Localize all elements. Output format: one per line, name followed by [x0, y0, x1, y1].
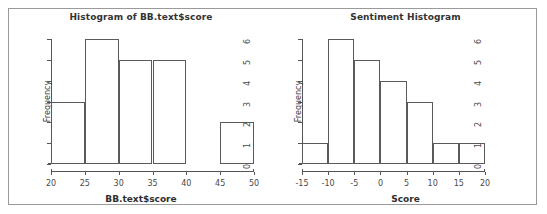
- y-tick-label: 2: [475, 122, 483, 127]
- x-axis-label-left: BB.text$score: [9, 194, 273, 204]
- histogram-bar: [328, 39, 354, 164]
- x-tick-mark: [85, 172, 86, 175]
- x-tick-mark: [119, 172, 120, 175]
- x-tick-label: 0: [378, 180, 383, 188]
- plot-area-right: 0123456-15-10-505101520: [302, 39, 485, 164]
- y-axis-label-left: Frequency: [43, 80, 52, 121]
- chart-title-left: Histogram of BB.text$score: [9, 12, 273, 22]
- x-tick-mark: [380, 172, 381, 175]
- histogram-bar: [153, 60, 187, 164]
- x-tick-mark: [220, 172, 221, 175]
- y-tick-mark: [47, 39, 51, 40]
- x-tick-mark: [459, 172, 460, 175]
- chart-title-right: Sentiment Histogram: [273, 12, 538, 22]
- x-tick-mark: [153, 172, 154, 175]
- x-tick-mark: [254, 172, 255, 175]
- x-tick-label: -15: [295, 180, 308, 188]
- x-tick-label: 25: [80, 180, 90, 188]
- x-tick-label: 50: [249, 180, 259, 188]
- y-axis-label-right: Frequency: [294, 80, 303, 121]
- x-tick-mark: [485, 172, 486, 175]
- x-tick-label: -10: [322, 180, 335, 188]
- chart-panel-right: Sentiment Histogram 0123456-15-10-505101…: [273, 9, 538, 204]
- histogram-bar: [354, 60, 380, 164]
- y-tick-mark: [298, 39, 302, 40]
- histogram-bar: [85, 39, 119, 164]
- y-tick-label: 2: [244, 122, 252, 127]
- histogram-bar: [51, 102, 85, 165]
- x-tick-label: 40: [181, 180, 191, 188]
- y-tick-mark: [47, 122, 51, 123]
- y-tick-label: 3: [244, 102, 252, 107]
- y-tick-label: 0: [475, 164, 483, 169]
- y-tick-label: 6: [475, 39, 483, 44]
- x-tick-mark: [186, 172, 187, 175]
- y-tick-label: 5: [475, 60, 483, 65]
- x-tick-label: 45: [215, 180, 225, 188]
- y-tick-label: 4: [475, 81, 483, 86]
- x-tick-mark: [51, 172, 52, 175]
- histogram-bar: [380, 81, 406, 164]
- plot-area-left: 012345620253035404550: [51, 39, 254, 164]
- y-tick-mark: [298, 60, 302, 61]
- histogram-bar: [433, 143, 459, 164]
- y-tick-label: 3: [475, 102, 483, 107]
- x-tick-label: 15: [454, 180, 464, 188]
- y-tick-mark: [47, 164, 51, 165]
- x-tick-label: 35: [147, 180, 157, 188]
- figure-frame: Histogram of BB.text$score 0123456202530…: [8, 8, 537, 205]
- histogram-bar: [302, 143, 328, 164]
- y-tick-mark: [47, 143, 51, 144]
- histogram-bar: [119, 60, 153, 164]
- y-tick-mark: [298, 164, 302, 165]
- x-tick-mark: [328, 172, 329, 175]
- y-tick-mark: [298, 122, 302, 123]
- y-tick-label: 4: [244, 81, 252, 86]
- y-tick-mark: [298, 143, 302, 144]
- x-tick-label: 10: [428, 180, 438, 188]
- x-tick-mark: [433, 172, 434, 175]
- x-tick-label: -5: [350, 180, 358, 188]
- chart-panel-left: Histogram of BB.text$score 0123456202530…: [9, 9, 273, 204]
- x-axis-label-right: Score: [273, 194, 538, 204]
- y-tick-label: 0: [244, 164, 252, 169]
- x-axis-line-right: [302, 171, 485, 172]
- x-tick-label: 5: [404, 180, 409, 188]
- x-tick-label: 30: [114, 180, 124, 188]
- x-tick-label: 20: [46, 180, 56, 188]
- x-tick-label: 20: [480, 180, 490, 188]
- y-tick-mark: [47, 60, 51, 61]
- y-tick-label: 5: [244, 60, 252, 65]
- y-tick-label: 1: [475, 143, 483, 148]
- y-tick-label: 6: [244, 39, 252, 44]
- x-tick-mark: [354, 172, 355, 175]
- y-tick-label: 1: [244, 143, 252, 148]
- x-tick-mark: [407, 172, 408, 175]
- x-tick-mark: [302, 172, 303, 175]
- histogram-bar: [407, 102, 433, 165]
